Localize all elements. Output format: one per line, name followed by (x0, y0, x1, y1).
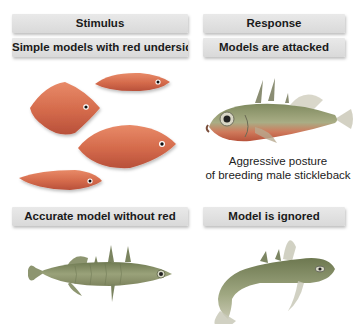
accurate-model-figure (0, 232, 180, 322)
simple-models-figure (0, 60, 180, 205)
simple-models-title: Simple models with red undersides (12, 38, 188, 57)
model-rhombus (30, 82, 100, 135)
aggressive-posture-caption: Aggressive posture of breeding male stic… (203, 154, 353, 182)
response-header: Response (203, 14, 345, 33)
model-long-thin (19, 170, 102, 190)
caption-line-1: Aggressive posture (203, 154, 353, 168)
ignored-fish-figure (180, 229, 355, 324)
stimulus-header: Stimulus (12, 14, 188, 33)
models-attacked-title: Models are attacked (203, 38, 345, 57)
accurate-model-title: Accurate model without red (12, 207, 188, 226)
caption-line-2: of breeding male stickleback (203, 168, 353, 182)
aggressive-stickleback-figure (195, 75, 355, 155)
model-large-oval (78, 125, 176, 168)
model-ignored-title: Model is ignored (203, 207, 345, 226)
model-small-elongated (95, 73, 170, 91)
